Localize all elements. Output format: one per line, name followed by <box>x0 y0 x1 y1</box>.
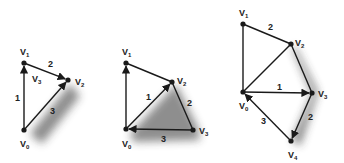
vertex-label-v0: V0 <box>239 101 249 112</box>
edge-weight-label: 1 <box>15 93 20 103</box>
edge-v1-v2 <box>126 63 172 82</box>
vertex-label-v2: V2 <box>295 38 305 49</box>
diagram-pentagon: 2123V0V1V2V3V4 <box>239 8 328 161</box>
edge-v1-v2 <box>24 63 65 79</box>
vertex-label-v3: V3 <box>318 89 328 100</box>
edge-weight-label: 1 <box>277 82 282 92</box>
vertex-v1-dot <box>123 60 128 65</box>
edge-v3-v0 <box>129 129 193 130</box>
vertex-v3-dot <box>309 90 314 95</box>
vertex-label-v1: V1 <box>122 47 132 58</box>
edge-weight-label: 3 <box>50 106 55 116</box>
vertex-v1-dot <box>21 60 26 65</box>
edge-v1-v2 <box>243 24 291 44</box>
vertex-label-v1: V1 <box>20 47 30 58</box>
edge-weight-label: 3 <box>261 116 266 126</box>
edge-v4-v0 <box>245 94 291 141</box>
edge-weight-label: 2 <box>48 59 53 69</box>
edge-weight-label: 3 <box>161 134 166 144</box>
vertex-label-v2: V2 <box>75 77 85 88</box>
vertex-v2-dot <box>65 77 70 82</box>
vertex-label-v4: V4 <box>288 150 298 161</box>
inner-vertex-label: V3 <box>32 74 42 85</box>
vertex-v0-dot <box>240 89 245 94</box>
edge-weight-label: 2 <box>308 112 313 122</box>
edge-weight-label: 2 <box>187 98 192 108</box>
edge-weight-label: 2 <box>268 22 273 32</box>
diagram-canvas: 123V0V1V2V3 123V0V1V2V3 2123V0V1V2V3V4 <box>0 0 344 163</box>
vertex-v0-dot <box>123 126 128 131</box>
vertex-label-v0: V0 <box>122 139 132 150</box>
vertex-label-v0: V0 <box>20 139 30 150</box>
vertex-label-v2: V2 <box>177 76 187 87</box>
edge-v2-v3 <box>291 44 312 93</box>
vertex-label-v3: V3 <box>199 126 209 137</box>
vertex-label-v1: V1 <box>239 8 249 19</box>
vertex-v2-dot <box>288 41 293 46</box>
edge-v0-v3 <box>243 92 309 93</box>
vertex-v4-dot <box>288 138 293 143</box>
vertex-v1-dot <box>240 21 245 26</box>
vertex-v3-dot <box>190 127 195 132</box>
vertex-v0-dot <box>21 127 26 132</box>
edge-v0-v2 <box>243 44 291 92</box>
edge-weight-label: 1 <box>146 92 151 102</box>
vertex-v2-dot <box>169 79 174 84</box>
